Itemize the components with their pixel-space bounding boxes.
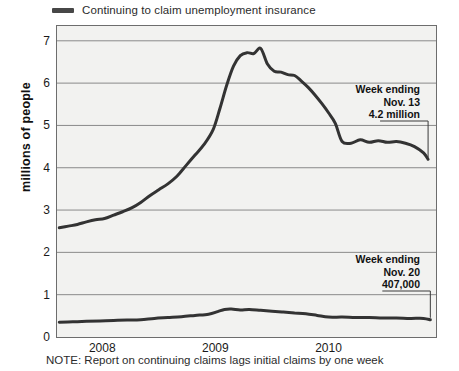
annotation-continuing-line-2: Nov. 13 (300, 96, 420, 109)
annotation-continuing-claims: Week ending Nov. 13 4.2 million (300, 83, 420, 121)
annotation-initial-claims: Week ending Nov. 20 407,000 (300, 253, 420, 291)
series-line-initial-claims (59, 309, 430, 322)
annotation-initial-line-1: Week ending (300, 253, 420, 266)
x-tick-label-2008: 2008 (89, 341, 116, 355)
annotation-initial-line-3: 407,000 (300, 278, 420, 291)
annotation-initial-line-2: Nov. 20 (300, 266, 420, 279)
annotation-continuing-line-1: Week ending (300, 83, 420, 96)
x-tick-label-2009: 2009 (202, 341, 229, 355)
y-tick-label-1: 1 (28, 288, 50, 302)
series-line-continuing-claims (59, 48, 428, 228)
annotation-continuing-line-3: 4.2 million (300, 108, 420, 121)
chart-legend: Continuing to claim unemployment insuran… (52, 2, 316, 18)
y-axis-title: millions of people (19, 67, 33, 207)
y-tick-label-7: 7 (28, 34, 50, 48)
y-tick-label-2: 2 (28, 245, 50, 259)
y-tick-label-0: 0 (28, 330, 50, 344)
chart-plot-area (56, 25, 437, 338)
legend-label-continuing-claims: Continuing to claim unemployment insuran… (82, 4, 316, 16)
x-tick-label-2010: 2010 (315, 341, 342, 355)
chart-note: NOTE: Report on continuing claims lags i… (46, 354, 383, 366)
legend-swatch-continuing-claims (52, 8, 74, 13)
